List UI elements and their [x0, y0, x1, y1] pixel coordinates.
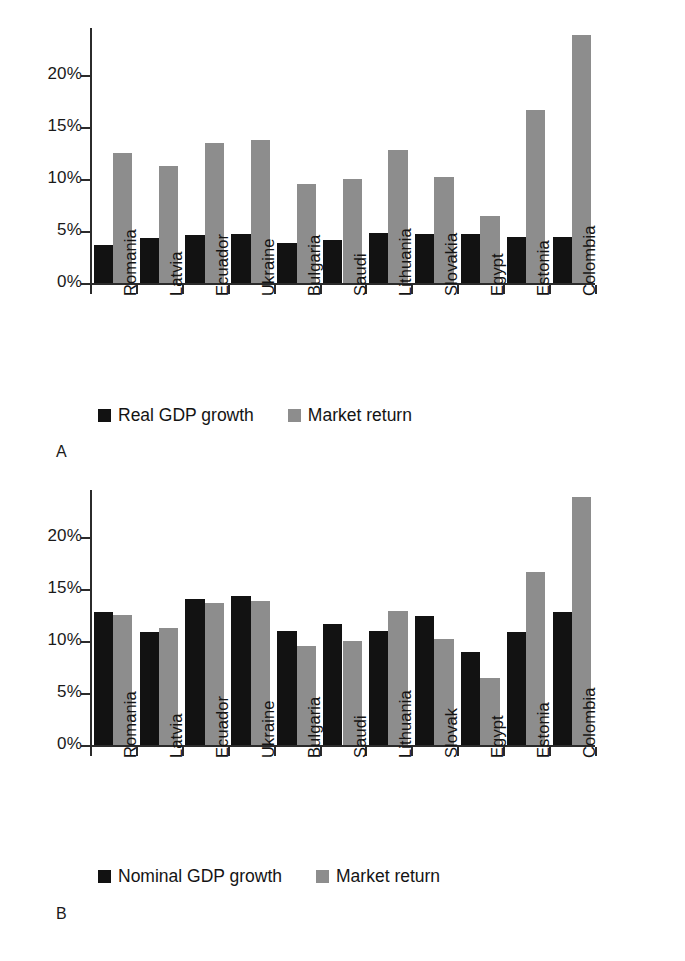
y-axis-tick-label: 15% [47, 578, 82, 598]
plot-area-a [90, 28, 595, 283]
plot-area-b [90, 490, 595, 745]
x-axis-category-label: Slovakia [442, 233, 461, 296]
bar-gdp-growth [323, 240, 342, 283]
legend-swatch-dark [98, 870, 111, 883]
y-axis-tick [81, 745, 90, 747]
legend-item: Nominal GDP growth [98, 866, 282, 887]
bar-gdp-growth [507, 632, 526, 745]
legend-label: Market return [308, 405, 412, 426]
x-axis-category-label: Romania [121, 691, 140, 758]
bar-gdp-growth [185, 235, 204, 283]
bar-gdp-growth [507, 237, 526, 283]
legend-item: Market return [288, 405, 412, 426]
bar-gdp-growth [553, 237, 572, 283]
legend-label: Nominal GDP growth [118, 866, 282, 887]
legend-item: Market return [316, 866, 440, 887]
bar-gdp-growth [461, 652, 480, 745]
legend-item: Real GDP growth [98, 405, 254, 426]
x-axis-category-label: Saudi [351, 715, 370, 758]
x-axis-category-label: Lithuania [396, 690, 415, 758]
x-axis-category-label: Colombia [580, 226, 599, 297]
y-axis-tick-label: 20% [47, 526, 82, 546]
y-axis-line [90, 490, 92, 745]
bar-gdp-growth [94, 245, 113, 284]
y-axis-tick-label: 20% [47, 64, 82, 84]
bar-gdp-growth [277, 243, 296, 283]
x-axis-category-label: Colombia [580, 688, 599, 759]
x-axis-category-label: Ukraine [259, 238, 278, 296]
legend-swatch-light [288, 409, 301, 422]
y-axis-line [90, 28, 92, 283]
y-axis-tick [81, 641, 90, 643]
y-axis-tick [81, 127, 90, 129]
legend-label: Market return [336, 866, 440, 887]
x-axis-category-label: Latvia [167, 713, 186, 758]
y-axis-tick [81, 231, 90, 233]
x-axis-tick [90, 285, 92, 294]
y-axis-tick-label: 10% [47, 168, 82, 188]
x-axis-category-label: Lithuania [396, 228, 415, 296]
bar-gdp-growth [553, 612, 572, 745]
y-axis-tick-label: 5% [57, 682, 82, 702]
x-axis-line [90, 283, 595, 285]
y-axis-tick-label: 0% [57, 734, 82, 754]
bar-gdp-growth [415, 616, 434, 745]
bar-gdp-growth [94, 612, 113, 745]
panel-letter-b: B [56, 905, 67, 923]
legend-swatch-light [316, 870, 329, 883]
y-axis-tick-label: 10% [47, 630, 82, 650]
y-axis-labels-a: 0%5%10%15%20% [22, 28, 82, 283]
x-axis-category-label: Estonia [534, 702, 553, 758]
bar-gdp-growth [140, 238, 159, 283]
x-axis-category-label: Bulgaria [305, 235, 324, 296]
bar-gdp-growth [277, 631, 296, 745]
y-axis-tick [81, 75, 90, 77]
panel-letter-a: A [56, 443, 67, 461]
bar-gdp-growth [140, 632, 159, 745]
x-axis-category-label: Egypt [488, 715, 507, 758]
y-axis-tick [81, 179, 90, 181]
chart-panel-b: 0%5%10%15%20% RomaniaLatviaEcuadorUkrain… [0, 470, 685, 961]
legend-label: Real GDP growth [118, 405, 254, 426]
x-axis-category-label: Slovak [442, 708, 461, 758]
bar-gdp-growth [231, 596, 250, 745]
x-axis-category-label: Latvia [167, 251, 186, 296]
y-axis-tick [81, 283, 90, 285]
bar-gdp-growth [231, 234, 250, 283]
x-axis-category-label: Ukraine [259, 700, 278, 758]
bar-gdp-growth [369, 233, 388, 283]
legend-swatch-dark [98, 409, 111, 422]
x-axis-category-label: Saudi [351, 253, 370, 296]
legend-b: Nominal GDP growthMarket return [98, 866, 440, 887]
y-axis-tick [81, 693, 90, 695]
bar-gdp-growth [415, 234, 434, 283]
x-axis-category-label: Egypt [488, 253, 507, 296]
y-axis-tick-label: 0% [57, 272, 82, 292]
x-axis-category-label: Romania [121, 229, 140, 296]
x-axis-category-label: Bulgaria [305, 697, 324, 758]
y-axis-tick [81, 589, 90, 591]
chart-panel-a: 0%5%10%15%20% RomaniaLatviaEcuadorUkrain… [0, 0, 685, 480]
x-axis-tick [90, 747, 92, 756]
x-axis-line [90, 745, 595, 747]
y-axis-tick [81, 537, 90, 539]
bar-gdp-growth [323, 624, 342, 745]
legend-a: Real GDP growthMarket return [98, 405, 412, 426]
x-axis-category-label: Ecuador [213, 234, 232, 296]
bar-gdp-growth [461, 234, 480, 283]
x-axis-category-label: Ecuador [213, 696, 232, 758]
bar-gdp-growth [369, 631, 388, 745]
y-axis-labels-b: 0%5%10%15%20% [22, 490, 82, 745]
y-axis-tick-label: 15% [47, 116, 82, 136]
x-axis-category-label: Estonia [534, 240, 553, 296]
y-axis-tick-label: 5% [57, 220, 82, 240]
bar-gdp-growth [185, 599, 204, 745]
